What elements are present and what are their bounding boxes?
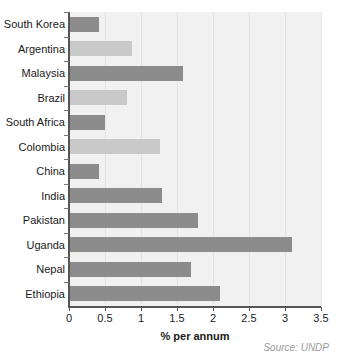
x-axis-tick-label: 1 [138,312,144,324]
gridline [321,12,322,306]
bar-row [69,282,220,307]
category-label: Ethiopia [25,282,65,307]
y-axis-tick [64,282,69,283]
category-label: India [41,184,65,209]
population-growth-bar-chart: South KoreaArgentinaMalaysiaBrazilSouth … [0,0,337,360]
category-label: Nepal [36,257,65,282]
y-axis-tick [64,110,69,111]
x-axis-tick [177,307,178,311]
category-label: China [36,159,65,184]
x-axis-title: % per annum [69,330,321,342]
x-axis-tick-label: 3 [282,312,288,324]
x-axis-tick [69,307,70,311]
category-label: Colombia [19,135,65,160]
x-axis-tick-label: 1.5 [169,312,184,324]
bar [69,237,292,252]
y-axis-tick [64,12,69,13]
category-label: South Korea [4,12,65,37]
category-label: Brazil [37,86,65,111]
bar [69,90,127,105]
bar [69,139,160,154]
x-axis-tick [321,307,322,311]
category-label: Uganda [26,233,65,258]
y-axis-tick [64,61,69,62]
bar [69,41,132,56]
bar [69,115,105,130]
x-axis-tick [141,307,142,311]
x-axis-tick-label: 0.5 [97,312,112,324]
category-label: Malaysia [22,61,65,86]
bar [69,188,162,203]
bar-row [69,110,105,135]
bar-series [69,12,321,306]
plot-area [69,12,321,306]
y-axis-tick [64,135,69,136]
category-label: South Africa [6,110,65,135]
bar [69,286,220,301]
y-axis-tick [64,159,69,160]
category-label: Argentina [18,37,65,62]
source-note: Source: UNDP [263,342,329,353]
y-axis-category-labels: South KoreaArgentinaMalaysiaBrazilSouth … [0,12,65,306]
bar-row [69,233,292,258]
bar-row [69,61,183,86]
x-axis-tick-label: 0 [66,312,72,324]
bar-row [69,37,132,62]
bar-row [69,208,198,233]
x-axis-tick [249,307,250,311]
bar-row [69,12,99,37]
y-axis-tick [64,86,69,87]
bar-row [69,184,162,209]
x-axis-tick [285,307,286,311]
x-axis-tick-label: 2 [210,312,216,324]
y-axis-tick [64,257,69,258]
x-axis-tick [105,307,106,311]
bar [69,66,183,81]
y-axis-tick [64,184,69,185]
bar [69,213,198,228]
x-axis-tick-label: 2.5 [241,312,256,324]
y-axis-tick [64,208,69,209]
bar [69,164,99,179]
category-label: Pakistan [23,208,65,233]
bar-row [69,159,99,184]
bar-row [69,257,191,282]
x-axis-tick [213,307,214,311]
y-axis-tick [64,233,69,234]
bar [69,262,191,277]
bar-row [69,86,127,111]
bar-row [69,135,160,160]
bar [69,17,99,32]
y-axis-tick [64,37,69,38]
x-axis-tick-label: 3.5 [313,312,328,324]
